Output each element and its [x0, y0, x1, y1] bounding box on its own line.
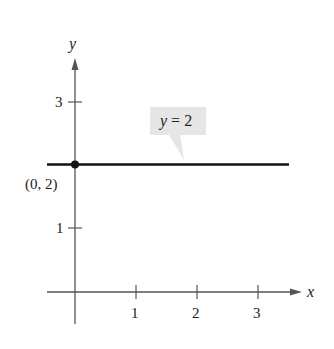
y-axis-arrow-icon	[72, 58, 79, 70]
equation-value: = 2	[167, 112, 192, 129]
y-tick-label-3: 3	[55, 94, 63, 110]
x-axis-arrow-icon	[290, 289, 302, 296]
x-tick-label-1: 1	[131, 305, 139, 321]
y-axis-label: y	[67, 35, 77, 53]
point-label: (0, 2)	[25, 176, 58, 193]
y-tick-label-1: 1	[56, 220, 64, 236]
x-tick-label-2: 2	[192, 305, 200, 321]
x-axis-label: x	[306, 283, 314, 300]
equation-callout: y = 2	[150, 107, 206, 160]
graph: y x 1 2 3 1 3 y = 2 (0, 2)	[0, 0, 334, 349]
x-tick-label-3: 3	[253, 305, 261, 321]
point-0-2	[71, 161, 79, 169]
svg-text:y = 2: y = 2	[158, 112, 192, 130]
